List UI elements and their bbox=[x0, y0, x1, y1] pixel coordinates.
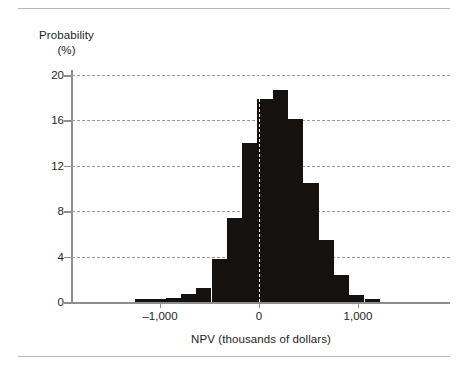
x-tick-1000 bbox=[358, 302, 359, 308]
y-tick-label-20: 20 bbox=[18, 69, 64, 81]
histogram-bar bbox=[150, 299, 165, 302]
gridline-20 bbox=[72, 75, 450, 76]
y-tick-label-8: 8 bbox=[18, 205, 64, 217]
y-tick-0 bbox=[64, 302, 72, 304]
y-tick-20 bbox=[64, 75, 72, 77]
plot-area bbox=[72, 75, 450, 302]
histogram-bar bbox=[227, 218, 242, 302]
histogram-bar bbox=[303, 183, 318, 302]
bottom-divider-rule bbox=[18, 356, 450, 357]
y-tick-12 bbox=[64, 166, 72, 168]
y-tick-label-0: 0 bbox=[18, 296, 64, 308]
histogram-bar bbox=[319, 240, 334, 302]
histogram-bar bbox=[135, 299, 150, 302]
y-tick-4 bbox=[64, 257, 72, 259]
x-tick-label--1000: –1,000 bbox=[120, 310, 200, 322]
y-tick-label-4: 4 bbox=[18, 251, 64, 263]
zero-reference-line bbox=[259, 69, 260, 302]
x-tick-label-0: 0 bbox=[219, 310, 299, 322]
histogram-bar bbox=[166, 298, 181, 302]
x-axis-title: NPV (thousands of dollars) bbox=[72, 333, 450, 345]
histogram-bar bbox=[334, 275, 349, 302]
y-axis-tick-labels: 048121620 bbox=[8, 0, 64, 369]
histogram-bar bbox=[181, 294, 196, 303]
y-tick-label-12: 12 bbox=[18, 160, 64, 172]
histogram-bar bbox=[242, 143, 257, 302]
top-divider-rule bbox=[18, 8, 450, 9]
y-tick-label-16: 16 bbox=[18, 114, 64, 126]
histogram-bar bbox=[273, 90, 288, 302]
histogram-bar bbox=[196, 288, 211, 302]
x-tick-label-1000: 1,000 bbox=[318, 310, 398, 322]
y-tick-8 bbox=[64, 211, 72, 213]
npv-probability-histogram-figure: Probability (%) 048121620 –1,00001,000 N… bbox=[0, 0, 466, 369]
histogram-bar bbox=[349, 295, 364, 302]
histogram-bar bbox=[288, 119, 303, 302]
x-axis-line bbox=[72, 302, 450, 304]
histogram-bar bbox=[365, 299, 380, 302]
histogram-bar bbox=[212, 259, 227, 302]
y-tick-16 bbox=[64, 120, 72, 122]
x-tick-0 bbox=[259, 302, 260, 308]
x-tick--1000 bbox=[160, 302, 161, 308]
